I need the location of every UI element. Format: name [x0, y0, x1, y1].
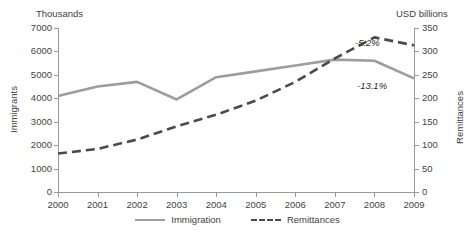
legend-swatch-dashed-line-icon	[251, 219, 281, 221]
series-line-remittances	[58, 37, 414, 153]
legend-swatch-solid-line-icon	[135, 219, 165, 221]
legend-item-remittances[interactable]: Remittances	[251, 214, 340, 225]
legend-label: Immigration	[171, 214, 221, 225]
legend-label: Remittances	[287, 214, 340, 225]
plot-area	[0, 0, 475, 238]
immigration-change-annotation: -13.1%	[357, 80, 387, 91]
chart-figure: Thousands USD billions Immigrants Remitt…	[0, 0, 475, 238]
chart-legend: ImmigrationRemittances	[0, 214, 475, 225]
legend-item-immigration[interactable]: Immigration	[135, 214, 221, 225]
remittances-change-annotation: -5.2%	[355, 37, 380, 48]
